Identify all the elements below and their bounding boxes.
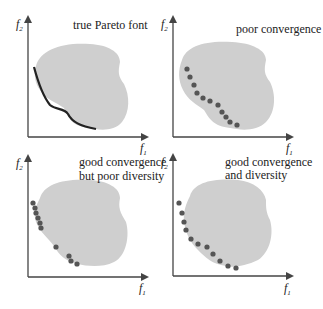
panel-good-convergence-and-diversity: good convergence and diversity f2 f1 [161, 155, 312, 297]
panel-title: true Pareto font [73, 18, 148, 32]
panel-title-line-2: but poor diversity [79, 169, 164, 183]
x-axis-label: f1 [139, 281, 146, 297]
x-axis-label: f1 [284, 281, 291, 297]
y-axis-label: f2 [161, 17, 168, 33]
panel-title: poor convergence [236, 22, 321, 36]
pareto-diagram: true Pareto font f2 f1 poor convergence … [0, 0, 323, 309]
y-axis-label: f2 [16, 17, 23, 33]
y-axis-label: f2 [16, 156, 23, 172]
feasible-region [35, 180, 128, 266]
panel-title-line-1: good convergence [79, 155, 166, 169]
feasible-region [184, 180, 272, 267]
panel-poor-convergence: poor convergence f2 f1 [161, 17, 321, 157]
panel-true-front: true Pareto font f2 f1 [16, 17, 148, 157]
panel-good-convergence-poor-diversity: good convergence but poor diversity f2 f… [16, 155, 166, 297]
panel-title-line-1: good convergence [225, 155, 312, 169]
feasible-region [35, 44, 128, 130]
panel-title-line-2: and diversity [225, 168, 287, 182]
